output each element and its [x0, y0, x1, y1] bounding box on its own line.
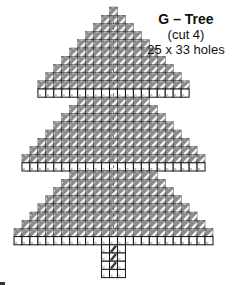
hole-cell — [117, 155, 125, 163]
hole-cell — [117, 114, 125, 122]
hole-cell — [125, 64, 133, 72]
hole-cell — [78, 130, 86, 138]
hole-cell — [46, 138, 54, 146]
hole-cell — [86, 155, 94, 163]
hole-cell — [62, 114, 70, 122]
hole-cell — [86, 220, 94, 228]
hole-cell — [141, 105, 149, 113]
hole-cell — [94, 32, 102, 40]
hole-cell — [197, 228, 205, 236]
hole-cell — [38, 146, 46, 154]
hole-cell — [54, 187, 62, 195]
hole-cell — [102, 56, 110, 64]
hole-cell — [94, 146, 102, 154]
hole-cell — [94, 196, 102, 204]
hole-cell — [70, 73, 78, 81]
hole-cell — [70, 64, 78, 72]
hole-cell — [86, 204, 94, 212]
hole-cell — [46, 212, 54, 220]
hole-cell — [54, 64, 62, 72]
hole-cell — [70, 138, 78, 146]
hole-cell — [102, 138, 110, 146]
hole-cell — [141, 73, 149, 81]
hole-cell — [165, 122, 173, 130]
hole-cell — [173, 130, 181, 138]
hole-cell — [102, 179, 110, 187]
hole-cell — [94, 138, 102, 146]
hole-cell — [102, 196, 110, 204]
hole-cell — [70, 204, 78, 212]
hole-cell — [141, 187, 149, 195]
hole-cell — [117, 212, 125, 220]
hole-cell — [62, 155, 70, 163]
hole-cell — [157, 146, 165, 154]
hole-cell — [141, 155, 149, 163]
hole-cell — [102, 23, 110, 31]
hole-cell — [38, 228, 46, 236]
hole-cell — [157, 196, 165, 204]
hole-cell — [94, 97, 102, 105]
hole-cell — [94, 122, 102, 130]
hole-cell — [141, 97, 149, 105]
hole-cell — [157, 155, 165, 163]
hole-cell — [78, 48, 86, 56]
pattern-title: G – Tree — [136, 12, 236, 27]
hole-cell — [78, 105, 86, 113]
hole-cell — [149, 171, 157, 179]
hole-cell — [141, 64, 149, 72]
hole-cell — [165, 130, 173, 138]
hole-cell — [125, 40, 133, 48]
hole-cell — [117, 73, 125, 81]
hole-cell — [86, 179, 94, 187]
hole-cell — [94, 171, 102, 179]
hole-cell — [86, 171, 94, 179]
hole-cell — [94, 73, 102, 81]
hole-cell — [46, 81, 54, 89]
hole-cell — [173, 212, 181, 220]
hole-cell — [86, 56, 94, 64]
hole-cell — [133, 73, 141, 81]
hole-cell — [102, 122, 110, 130]
hole-cell — [125, 187, 133, 195]
hole-cell — [181, 146, 189, 154]
hole-cell — [94, 204, 102, 212]
hole-cell — [181, 155, 189, 163]
hole-cell — [102, 155, 110, 163]
hole-cell — [62, 64, 70, 72]
hole-cell — [117, 204, 125, 212]
hole-cell — [78, 196, 86, 204]
hole-cell — [78, 228, 86, 236]
hole-cell — [102, 48, 110, 56]
hole-cell — [117, 23, 125, 31]
hole-cell — [149, 155, 157, 163]
hole-cell — [157, 220, 165, 228]
hole-cell — [165, 212, 173, 220]
hole-cell — [78, 204, 86, 212]
hole-cell — [94, 114, 102, 122]
hole-cell — [78, 81, 86, 89]
hole-cell — [141, 122, 149, 130]
hole-cell — [54, 155, 62, 163]
hole-cell — [70, 105, 78, 113]
hole-cell — [165, 81, 173, 89]
hole-cell — [70, 81, 78, 89]
hole-cell — [102, 171, 110, 179]
hole-cell — [189, 212, 197, 220]
hole-cell — [62, 220, 70, 228]
hole-cell — [38, 212, 46, 220]
hole-cell — [54, 122, 62, 130]
hole-cell — [86, 196, 94, 204]
hole-cell — [117, 171, 125, 179]
hole-cell — [78, 187, 86, 195]
hole-cell — [125, 155, 133, 163]
hole-cell — [149, 196, 157, 204]
hole-cell — [46, 73, 54, 81]
hole-cell — [125, 228, 133, 236]
hole-cell — [157, 138, 165, 146]
hole-cell — [133, 228, 141, 236]
hole-cell — [70, 196, 78, 204]
hole-cell — [149, 73, 157, 81]
hole-cell — [149, 187, 157, 195]
hole-cell — [86, 105, 94, 113]
hole-cell — [38, 138, 46, 146]
